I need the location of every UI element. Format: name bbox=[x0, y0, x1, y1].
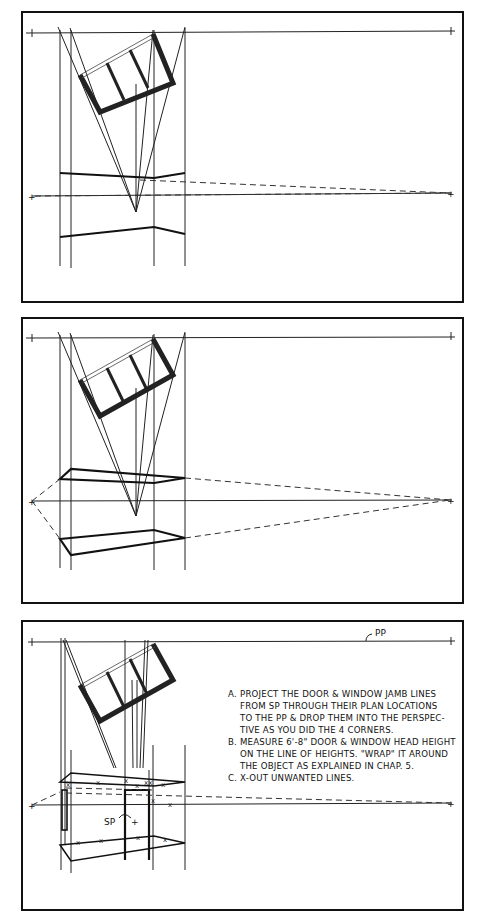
building-plan bbox=[80, 644, 173, 721]
svg-text:x: x bbox=[151, 797, 155, 805]
svg-text:C.: C. bbox=[228, 773, 237, 783]
svg-text:+: + bbox=[28, 192, 36, 202]
panel-frame bbox=[22, 12, 463, 302]
svg-text:x: x bbox=[76, 839, 80, 847]
svg-text:TO THE PP & DROP THEM INTO THE: TO THE PP & DROP THEM INTO THE PERSPEC- bbox=[239, 713, 445, 723]
svg-text:x: x bbox=[124, 777, 128, 785]
svg-text:B.: B. bbox=[228, 737, 237, 747]
svg-text:MEASURE 6'-8" DOOR & WINDOW HE: MEASURE 6'-8" DOOR & WINDOW HEAD HEIGHT bbox=[240, 737, 456, 747]
svg-text:+: + bbox=[447, 799, 455, 809]
svg-text:x: x bbox=[99, 837, 103, 845]
svg-text:x: x bbox=[66, 781, 70, 789]
panel-2: + + bbox=[22, 318, 463, 603]
svg-text:+: + bbox=[28, 801, 36, 811]
panel-1: + + bbox=[22, 12, 463, 302]
picture-plane-line bbox=[26, 31, 455, 33]
building-plan bbox=[80, 34, 173, 112]
svg-text:TIVE AS YOU DID THE 4 CORNERS.: TIVE AS YOU DID THE 4 CORNERS. bbox=[239, 725, 394, 735]
svg-text:THE OBJECT AS EXPLAINED IN CHA: THE OBJECT AS EXPLAINED IN CHAP. 5. bbox=[239, 761, 414, 771]
svg-text:xx: xx bbox=[144, 779, 152, 787]
svg-text:PROJECT THE DOOR & WINDOW JAMB: PROJECT THE DOOR & WINDOW JAMB LINES bbox=[240, 689, 436, 699]
svg-text:A.: A. bbox=[228, 689, 237, 699]
svg-text:FROM SP THROUGH THEIR PLAN LOC: FROM SP THROUGH THEIR PLAN LOCATIONS bbox=[240, 701, 437, 711]
svg-text:x: x bbox=[161, 781, 165, 789]
svg-text:x: x bbox=[168, 801, 172, 809]
perspective-diagram: + + + + bbox=[0, 0, 481, 924]
svg-text:x: x bbox=[163, 836, 167, 844]
svg-text:x: x bbox=[96, 779, 100, 787]
svg-text:ON THE LINE OF HEIGHTS. "WRAP": ON THE LINE OF HEIGHTS. "WRAP" IT AROUND bbox=[240, 749, 448, 759]
svg-text:+: + bbox=[131, 817, 139, 827]
svg-text:+: + bbox=[447, 496, 455, 506]
svg-text:X-OUT UNWANTED LINES.: X-OUT UNWANTED LINES. bbox=[240, 773, 354, 783]
panel-3: PP + + bbox=[22, 621, 463, 910]
pp-label: PP bbox=[375, 628, 386, 638]
sp-label: SP bbox=[104, 817, 116, 827]
svg-text:+: + bbox=[447, 189, 455, 199]
building-plan bbox=[80, 339, 173, 416]
svg-text:x: x bbox=[135, 782, 139, 790]
pp-leader bbox=[366, 634, 372, 641]
panel-frame bbox=[22, 318, 463, 603]
svg-text:x: x bbox=[136, 834, 140, 842]
instructions: A. PROJECT THE DOOR & WINDOW JAMB LINES … bbox=[228, 689, 456, 783]
